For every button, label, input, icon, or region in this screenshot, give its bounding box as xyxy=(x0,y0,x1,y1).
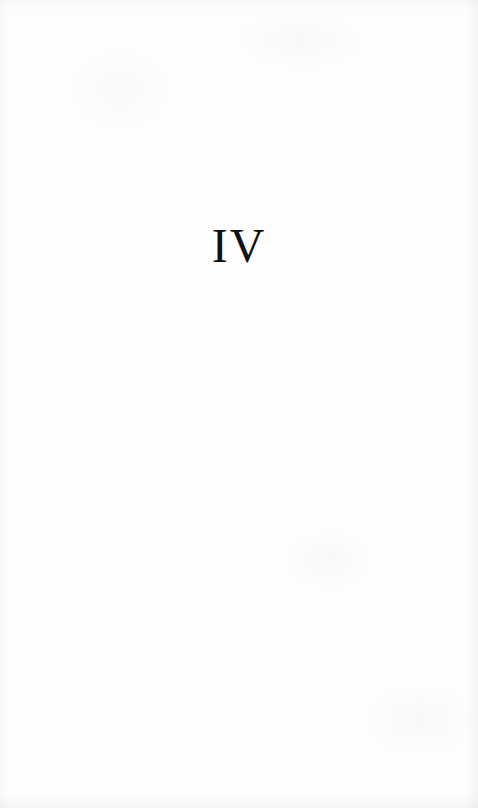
book-page: IV xyxy=(0,0,478,808)
part-number-heading: IV xyxy=(0,218,478,274)
